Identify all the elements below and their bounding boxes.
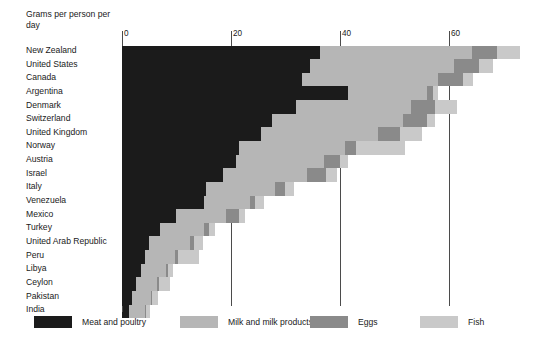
- bar-segment-milk-and-milk-products: [272, 114, 403, 128]
- chart-legend: Meat and poultryMilk and milk productsEg…: [0, 316, 533, 340]
- category-label: Italy: [26, 180, 120, 194]
- bar-row: [122, 209, 528, 223]
- category-label: Peru: [26, 249, 120, 263]
- bar-row: [122, 264, 528, 278]
- category-label: Libya: [26, 262, 120, 276]
- bar-segment-milk-and-milk-products: [310, 59, 454, 73]
- category-label: United States: [26, 58, 120, 72]
- category-label: Switzerland: [26, 112, 120, 126]
- plot-area: 0204060: [122, 46, 528, 306]
- bar-row: [122, 86, 528, 100]
- bar-row: [122, 236, 528, 250]
- bar-row: [122, 59, 528, 73]
- legend-swatch: [180, 316, 218, 328]
- bar-segment-milk-and-milk-products: [132, 291, 151, 305]
- bar-segment-meat-and-poultry: [122, 223, 160, 237]
- category-label: Mexico: [26, 208, 120, 222]
- legend-item: Eggs: [310, 316, 378, 334]
- bar-segment-meat-and-poultry: [122, 86, 348, 100]
- bar-segment-meat-and-poultry: [122, 209, 176, 223]
- bar-row: [122, 114, 528, 128]
- bar-segment-milk-and-milk-products: [236, 155, 323, 169]
- bar-row: [122, 168, 528, 182]
- bar-segment-milk-and-milk-products: [348, 86, 427, 100]
- bar-segment-meat-and-poultry: [122, 182, 206, 196]
- bar-segment-fish: [239, 209, 244, 223]
- legend-item: Milk and milk products: [180, 316, 313, 334]
- legend-item: Fish: [420, 316, 484, 334]
- bar-segment-meat-and-poultry: [122, 127, 261, 141]
- bar-segment-fish: [427, 114, 435, 128]
- bar-segment-milk-and-milk-products: [261, 127, 378, 141]
- bar-segment-milk-and-milk-products: [239, 141, 345, 155]
- bar-segment-eggs: [403, 114, 428, 128]
- category-label: Austria: [26, 153, 120, 167]
- bar-segment-fish: [435, 100, 457, 114]
- bar-segment-fish: [479, 59, 493, 73]
- axis-title: Grams per person per day: [26, 9, 122, 30]
- bar-segment-eggs: [438, 73, 463, 87]
- bar-segment-fish: [178, 250, 200, 264]
- bar-segment-milk-and-milk-products: [206, 182, 274, 196]
- bar-segment-meat-and-poultry: [122, 59, 310, 73]
- bar-segment-milk-and-milk-products: [176, 209, 225, 223]
- category-axis-labels: New ZealandUnited StatesCanadaArgentinaD…: [26, 44, 120, 317]
- bar-row: [122, 277, 528, 291]
- bar-segment-fish: [400, 127, 422, 141]
- legend-label: Meat and poultry: [82, 317, 146, 327]
- protein-consumption-chart: Grams per person per day New ZealandUnit…: [0, 0, 533, 355]
- bar-segment-meat-and-poultry: [122, 291, 132, 305]
- bar-segment-milk-and-milk-products: [223, 168, 307, 182]
- bar-segment-milk-and-milk-products: [320, 46, 473, 60]
- bar-row: [122, 182, 528, 196]
- bar-segment-fish: [285, 182, 293, 196]
- category-label: Canada: [26, 71, 120, 85]
- bar-segment-eggs: [411, 100, 436, 114]
- category-label: Israel: [26, 167, 120, 181]
- bar-segment-eggs: [275, 182, 286, 196]
- bar-segment-meat-and-poultry: [122, 100, 296, 114]
- bar-segment-meat-and-poultry: [122, 73, 302, 87]
- bar-segment-fish: [340, 155, 348, 169]
- category-label: Ceylon: [26, 276, 120, 290]
- category-label: Denmark: [26, 99, 120, 113]
- x-axis-tick-label: 0: [122, 29, 129, 38]
- legend-label: Milk and milk products: [228, 317, 313, 327]
- bar-row: [122, 73, 528, 87]
- bar-segment-fish: [152, 291, 157, 305]
- bar-segment-fish: [255, 196, 263, 210]
- bar-row: [122, 100, 528, 114]
- legend-label: Eggs: [358, 317, 378, 327]
- bar-segment-meat-and-poultry: [122, 277, 136, 291]
- category-label: Argentina: [26, 85, 120, 99]
- bar-segment-meat-and-poultry: [122, 196, 204, 210]
- bar-segment-meat-and-poultry: [122, 264, 141, 278]
- bar-segment-fish: [497, 46, 520, 60]
- bar-segment-milk-and-milk-products: [136, 277, 158, 291]
- bar-segment-milk-and-milk-products: [149, 236, 190, 250]
- bar-segment-milk-and-milk-products: [160, 223, 204, 237]
- bar-segment-eggs: [345, 141, 356, 155]
- bar-row: [122, 46, 528, 60]
- bar-segment-fish: [463, 73, 474, 87]
- legend-swatch: [310, 316, 348, 328]
- category-label: Pakistan: [26, 290, 120, 304]
- bar-segment-eggs: [226, 209, 240, 223]
- bar-segment-milk-and-milk-products: [296, 100, 410, 114]
- bar-row: [122, 155, 528, 169]
- bar-segment-eggs: [324, 155, 340, 169]
- bar-segment-eggs: [307, 168, 326, 182]
- legend-item: Meat and poultry: [34, 316, 146, 334]
- bar-segment-meat-and-poultry: [122, 250, 145, 264]
- category-label: Venezuela: [26, 194, 120, 208]
- category-label: United Arab Republic: [26, 235, 120, 249]
- bar-segment-milk-and-milk-products: [145, 250, 175, 264]
- category-label: Turkey: [26, 221, 120, 235]
- bar-row: [122, 291, 528, 305]
- bar-segment-milk-and-milk-products: [141, 264, 166, 278]
- bar-segment-milk-and-milk-products: [302, 73, 438, 87]
- bar-row: [122, 196, 528, 210]
- bar-rows: [122, 46, 528, 306]
- bar-segment-fish: [326, 168, 337, 182]
- axis-baseline-tick: [122, 306, 123, 312]
